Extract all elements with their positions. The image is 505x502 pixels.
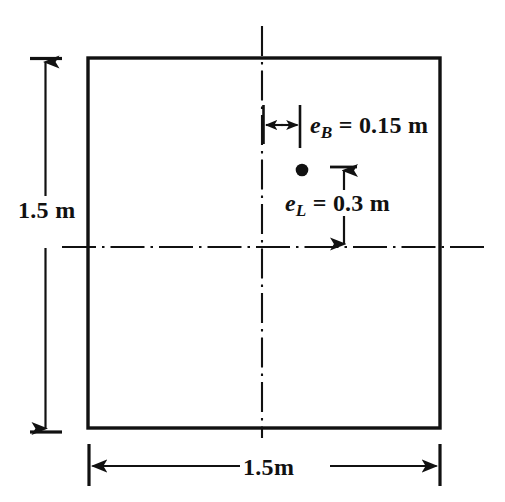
el-symbol: e bbox=[285, 190, 296, 216]
load-application-point-dot bbox=[296, 164, 309, 177]
el-subscript: L bbox=[296, 201, 307, 220]
el-equals: = bbox=[313, 190, 327, 216]
el-value: 0.3 m bbox=[333, 190, 390, 216]
dimension-label-el: eL = 0.3 m bbox=[285, 191, 390, 219]
dimension-label-width: 1.5m bbox=[243, 455, 294, 479]
eb-subscript: B bbox=[321, 123, 333, 142]
footing-diagram bbox=[0, 0, 505, 502]
dimension-label-height: 1.5 m bbox=[18, 198, 76, 222]
eb-symbol: e bbox=[310, 112, 321, 138]
eb-equals: = bbox=[339, 112, 353, 138]
eb-value: 0.15 m bbox=[359, 112, 428, 138]
dimension-label-eb: eB = 0.15 m bbox=[310, 113, 428, 141]
